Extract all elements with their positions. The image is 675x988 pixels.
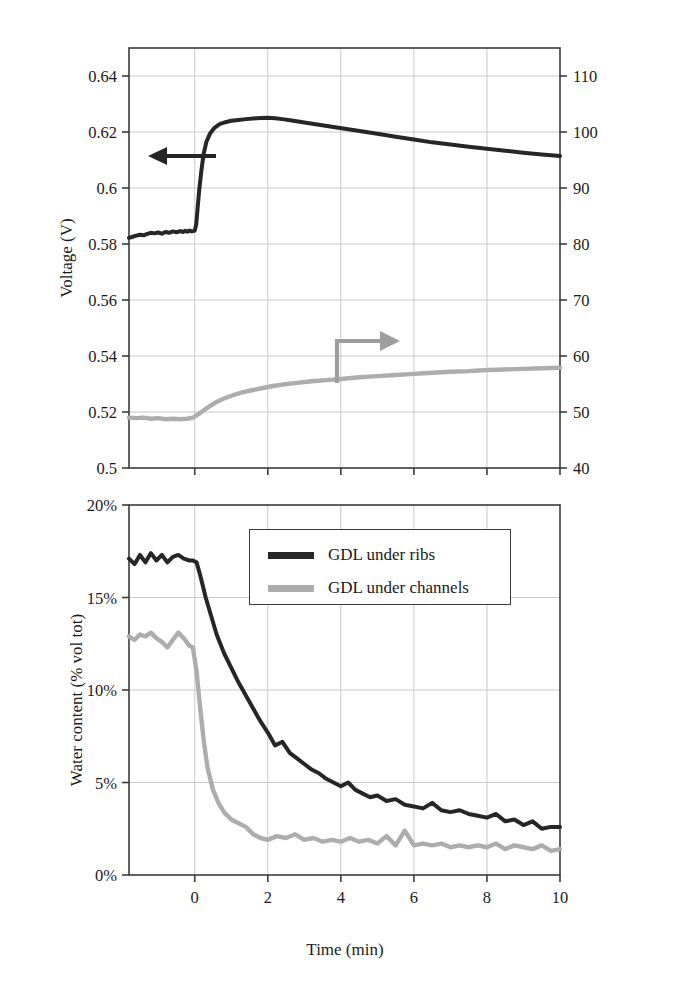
figure-container: 0.50.520.540.560.580.60.620.644050607080… <box>0 0 675 988</box>
legend-label-gdl-under-ribs: GDL under ribs <box>328 545 435 565</box>
legend-label-gdl-under-channels: GDL under channels <box>328 578 469 598</box>
series-line <box>129 118 560 238</box>
legend-swatch-dark <box>268 552 314 559</box>
y-axis-tick-label: 20% <box>87 496 118 515</box>
y2-axis-tick-label: 40 <box>573 459 590 478</box>
y-axis-tick-label: 0.5 <box>96 459 117 478</box>
top-svg-root: 0.50.520.540.560.580.60.620.644050607080… <box>88 48 598 478</box>
x-axis-tick-label: 6 <box>410 888 418 907</box>
y-axis-tick-label: 0.56 <box>88 291 117 310</box>
legend-item-gdl-under-channels: GDL under channels <box>268 578 469 598</box>
x-axis-tick-label: 2 <box>264 888 272 907</box>
y2-axis-tick-label: 70 <box>573 291 590 310</box>
y2-axis-tick-label: 100 <box>573 123 598 142</box>
x-axis-tick-label: 0 <box>191 888 199 907</box>
legend-item-gdl-under-ribs: GDL under ribs <box>268 545 435 565</box>
y-axis-tick-label: 10% <box>87 681 118 700</box>
y-axis-tick-label: 0.64 <box>88 67 117 86</box>
series-line <box>129 633 560 851</box>
x-axis-tick-label: 8 <box>483 888 491 907</box>
y-axis-tick-label: 0.58 <box>88 235 117 254</box>
y-axis-tick-label: 0% <box>95 866 117 885</box>
y2-axis-tick-label: 90 <box>573 179 590 198</box>
x-axis-tick-label: 10 <box>552 888 569 907</box>
arrow-head <box>380 331 400 351</box>
y-axis-tick-label: 0.54 <box>88 347 117 366</box>
bottom-chart-y-axis-title: Water content (% vol tot) <box>67 570 87 830</box>
bottom-chart-x-axis-title: Time (min) <box>265 940 425 960</box>
y2-axis-tick-label: 110 <box>573 67 597 86</box>
y2-axis-tick-label: 60 <box>573 347 590 366</box>
legend-swatch-light <box>268 585 314 592</box>
x-axis-tick-label: 4 <box>337 888 345 907</box>
y-axis-tick-label: 15% <box>87 589 118 608</box>
y-axis-tick-label: 5% <box>95 774 117 793</box>
y-axis-tick-label: 0.52 <box>88 403 117 422</box>
y2-axis-tick-label: 80 <box>573 235 590 254</box>
top-chart-y-axis-title: Voltage (V) <box>57 178 77 338</box>
y-axis-tick-label: 0.6 <box>96 179 117 198</box>
y-axis-tick-label: 0.62 <box>88 123 117 142</box>
plot-frame <box>129 48 560 468</box>
top-chart-plot: 0.50.520.540.560.580.60.620.644050607080… <box>0 0 675 500</box>
y2-axis-tick-label: 50 <box>573 403 590 422</box>
arrow-head <box>148 147 167 165</box>
